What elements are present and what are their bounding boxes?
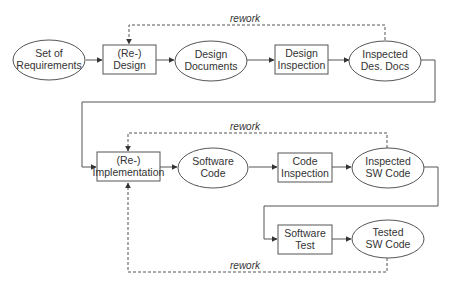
svg-text:Software: Software	[192, 155, 234, 167]
svg-text:Set of: Set of	[35, 47, 63, 59]
svg-text:Inspection: Inspection	[281, 167, 329, 179]
svg-text:Inspection: Inspection	[278, 59, 326, 71]
rework-label-2: rework	[230, 121, 261, 132]
node-requirements: Set of Requirements	[13, 40, 85, 80]
svg-text:Code: Code	[292, 155, 317, 167]
svg-text:Software: Software	[284, 227, 326, 239]
edge-rework-implementation-1	[128, 133, 387, 151]
rework-label-1: rework	[230, 13, 261, 24]
svg-text:(Re-): (Re-)	[118, 47, 142, 59]
svg-text:Requirements: Requirements	[16, 59, 81, 71]
node-software-code: Software Code	[178, 148, 248, 188]
edge-rework-design	[129, 25, 385, 44]
svg-text:Code: Code	[200, 167, 225, 179]
svg-text:SW Code: SW Code	[366, 238, 411, 250]
node-design: (Re-) Design	[103, 45, 156, 74]
svg-text:Tested: Tested	[373, 226, 404, 238]
edge-rework-implementation-2	[128, 183, 387, 272]
node-code-inspection: Code Inspection	[278, 153, 332, 182]
rework-label-3: rework	[230, 260, 261, 271]
node-design-documents: Design Documents	[175, 41, 247, 81]
svg-text:Test: Test	[295, 239, 314, 251]
node-tested-sw-code: Tested SW Code	[352, 220, 424, 258]
svg-text:Des. Docs: Des. Docs	[361, 60, 409, 72]
svg-text:Design: Design	[113, 59, 146, 71]
svg-text:Implementation: Implementation	[93, 166, 165, 178]
node-design-inspection: Design Inspection	[275, 45, 328, 74]
svg-text:SW Code: SW Code	[366, 167, 411, 179]
process-flow-diagram: rework rework rework Set of Requirements…	[0, 0, 452, 286]
svg-text:Design: Design	[285, 47, 318, 59]
svg-text:Design: Design	[195, 48, 228, 60]
svg-text:Inspected: Inspected	[365, 155, 411, 167]
svg-text:(Re-): (Re-)	[117, 154, 141, 166]
node-software-test: Software Test	[278, 225, 332, 254]
node-inspected-design-docs: Inspected Des. Docs	[349, 41, 421, 81]
node-implementation: (Re-) Implementation	[93, 152, 165, 181]
svg-text:Inspected: Inspected	[362, 48, 408, 60]
svg-text:Documents: Documents	[184, 60, 237, 72]
node-inspected-sw-code: Inspected SW Code	[352, 148, 424, 188]
